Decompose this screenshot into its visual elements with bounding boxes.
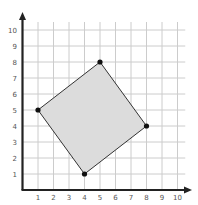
x-tick-label: 4 [82, 194, 87, 202]
coordinate-grid: 12345678910 12345678910 [0, 0, 198, 205]
x-tick-label: 7 [129, 194, 133, 202]
x-tick-label: 2 [51, 194, 55, 202]
x-tick-label: 10 [173, 194, 182, 202]
vertex-point [82, 171, 87, 176]
y-tick-label: 8 [13, 59, 17, 67]
vertex-point [97, 59, 102, 64]
x-tick-label: 9 [160, 194, 164, 202]
y-tick-label: 6 [13, 91, 18, 99]
x-axis-tick-labels: 12345678910 [36, 194, 182, 202]
y-axis-arrow-icon [19, 12, 26, 20]
y-tick-label: 4 [13, 123, 18, 131]
vertex-point [35, 107, 40, 112]
y-tick-label: 9 [13, 43, 17, 51]
y-tick-label: 2 [13, 155, 17, 163]
y-tick-label: 3 [13, 139, 17, 147]
x-tick-label: 6 [113, 194, 118, 202]
x-axis-arrow-icon [184, 187, 192, 194]
x-tick-label: 5 [98, 194, 102, 202]
y-tick-label: 1 [13, 171, 17, 179]
y-tick-label: 7 [13, 75, 17, 83]
y-axis-tick-labels: 12345678910 [8, 27, 17, 179]
vertex-point [144, 123, 149, 128]
x-tick-label: 8 [144, 194, 148, 202]
square-polygon [38, 62, 147, 174]
x-tick-label: 1 [36, 194, 40, 202]
y-tick-label: 5 [13, 107, 17, 115]
y-tick-label: 10 [8, 27, 17, 35]
x-tick-label: 3 [67, 194, 71, 202]
